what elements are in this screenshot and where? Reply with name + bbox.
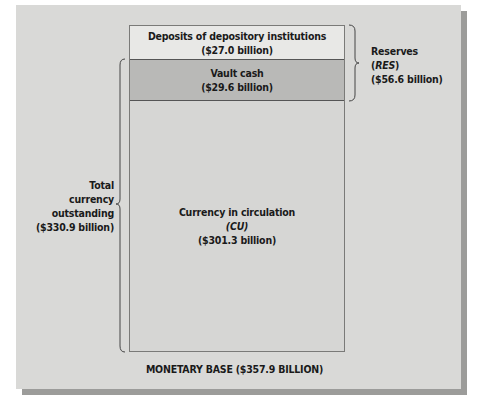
reserves-brace xyxy=(349,25,359,101)
total-currency-brace xyxy=(116,59,125,352)
monetary-base-title: MONETARY BASE ($357.9 BILLION) xyxy=(146,362,323,376)
total-line2: currency xyxy=(22,192,114,206)
total-currency-label: Total currency outstanding ($330.9 billi… xyxy=(22,178,114,234)
reserves-label: Reserves (RES) ($56.6 billion) xyxy=(371,44,443,86)
monetary-base-caption: MONETARY BASE ($357.9 BILLION) xyxy=(0,358,479,377)
reserves-abbrev-text: RES xyxy=(375,59,395,71)
reserves-title: Reserves xyxy=(371,44,443,58)
total-value: ($330.9 billion) xyxy=(22,220,114,234)
reserves-abbrev: (RES) xyxy=(371,58,443,72)
total-line3: outstanding xyxy=(22,206,114,220)
reserves-value: ($56.6 billion) xyxy=(371,72,443,86)
total-line1: Total xyxy=(22,178,114,192)
